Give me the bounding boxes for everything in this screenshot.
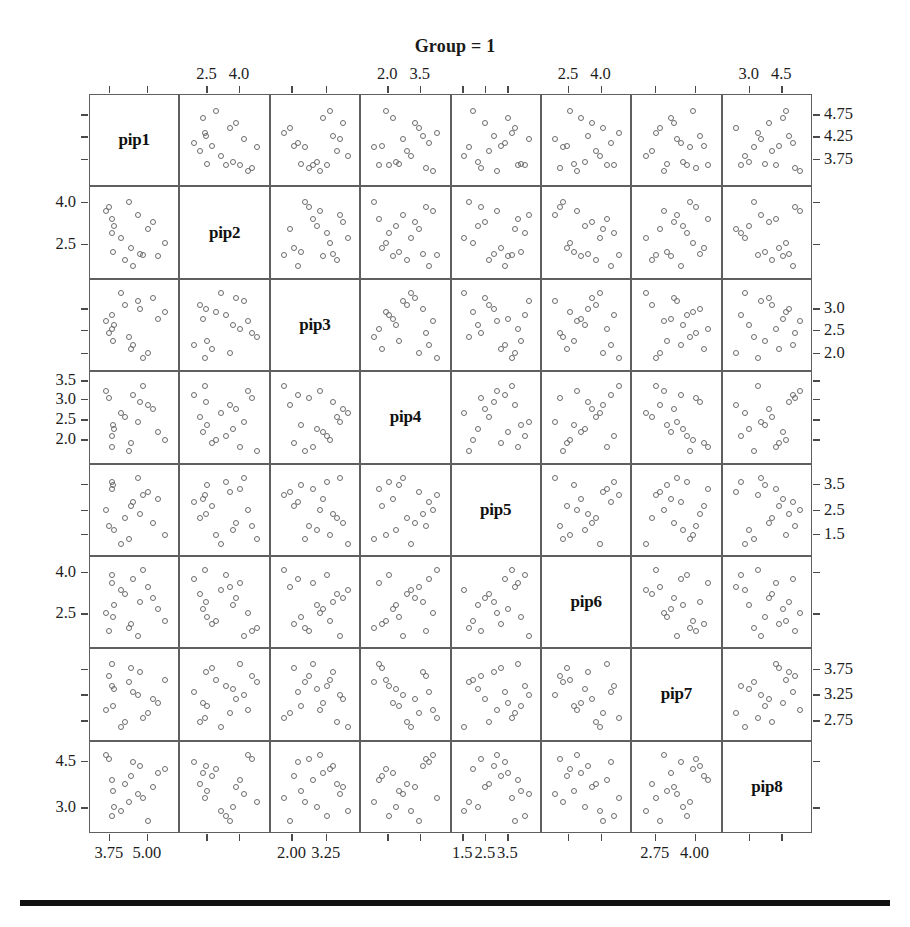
data-point bbox=[678, 392, 684, 398]
data-point bbox=[416, 125, 422, 131]
splom-panel-pip3-vs-pip8 bbox=[722, 279, 812, 371]
data-point bbox=[571, 788, 577, 794]
data-point bbox=[597, 724, 603, 730]
data-point bbox=[191, 759, 197, 765]
splom-diagonal-panel-pip3: pip3 bbox=[270, 279, 360, 371]
data-point bbox=[746, 527, 752, 533]
data-point bbox=[400, 692, 406, 698]
axis-tick bbox=[326, 86, 327, 93]
data-point bbox=[393, 686, 399, 692]
data-point bbox=[616, 383, 622, 389]
data-point bbox=[109, 572, 115, 578]
splom-panel-pip8-vs-pip4 bbox=[360, 741, 450, 833]
splom-variable-label: pip5 bbox=[480, 500, 511, 520]
axis-tick bbox=[813, 136, 820, 137]
data-point bbox=[515, 216, 521, 222]
data-point bbox=[466, 679, 472, 685]
data-point bbox=[693, 628, 699, 634]
data-point bbox=[245, 610, 251, 616]
data-point bbox=[302, 199, 308, 205]
data-point bbox=[564, 503, 570, 509]
data-point bbox=[680, 223, 686, 229]
data-point bbox=[306, 204, 312, 210]
data-point bbox=[687, 448, 693, 454]
data-point bbox=[423, 204, 429, 210]
axis-tick bbox=[781, 834, 782, 841]
data-point bbox=[330, 399, 336, 405]
data-point bbox=[509, 567, 515, 573]
data-point bbox=[776, 143, 782, 149]
data-point bbox=[109, 777, 115, 783]
data-point bbox=[287, 125, 293, 131]
data-point bbox=[109, 216, 115, 222]
axis-label-right: 3.0 bbox=[824, 300, 845, 317]
data-point bbox=[470, 309, 476, 315]
data-point bbox=[103, 208, 109, 214]
data-point bbox=[111, 322, 117, 328]
data-point bbox=[291, 773, 297, 779]
data-point bbox=[697, 306, 703, 312]
data-point bbox=[560, 448, 566, 454]
data-point bbox=[408, 541, 414, 547]
data-point bbox=[733, 489, 739, 495]
data-point bbox=[118, 541, 124, 547]
data-point bbox=[776, 665, 782, 671]
data-point bbox=[408, 235, 414, 241]
data-point bbox=[291, 665, 297, 671]
data-point bbox=[680, 527, 686, 533]
data-point bbox=[327, 618, 333, 624]
data-point bbox=[430, 208, 436, 214]
data-point bbox=[578, 429, 584, 435]
data-point bbox=[386, 572, 392, 578]
data-point bbox=[783, 437, 789, 443]
data-point bbox=[684, 312, 690, 318]
data-point bbox=[400, 475, 406, 481]
data-point bbox=[693, 204, 699, 210]
data-point bbox=[241, 475, 247, 481]
data-point bbox=[345, 808, 351, 814]
data-point bbox=[512, 226, 518, 232]
data-point bbox=[126, 448, 132, 454]
data-point bbox=[515, 580, 521, 586]
axis-tick bbox=[813, 484, 820, 485]
data-point bbox=[505, 115, 511, 121]
data-point bbox=[585, 399, 591, 405]
data-point bbox=[582, 527, 588, 533]
data-point bbox=[118, 410, 124, 416]
data-point bbox=[197, 148, 203, 154]
data-point bbox=[690, 309, 696, 315]
data-point bbox=[674, 475, 680, 481]
data-point bbox=[742, 724, 748, 730]
data-point bbox=[416, 226, 422, 232]
axis-tick bbox=[813, 308, 820, 309]
data-point bbox=[371, 679, 377, 685]
data-point bbox=[291, 440, 297, 446]
data-point bbox=[478, 673, 484, 679]
data-point bbox=[386, 813, 392, 819]
data-point bbox=[416, 350, 422, 356]
splom-panel-pip8-vs-pip1 bbox=[89, 741, 179, 833]
data-point bbox=[420, 763, 426, 769]
data-point bbox=[379, 665, 385, 671]
axis-tick bbox=[781, 86, 782, 93]
data-point bbox=[746, 426, 752, 432]
data-point bbox=[254, 799, 260, 805]
data-point bbox=[103, 318, 109, 324]
data-point bbox=[701, 346, 707, 352]
data-point bbox=[340, 784, 346, 790]
data-point bbox=[298, 614, 304, 620]
splom-variable-label: pip1 bbox=[119, 130, 150, 150]
data-point bbox=[478, 330, 484, 336]
data-point bbox=[400, 136, 406, 142]
axis-label-right: 3.25 bbox=[824, 686, 853, 703]
axis-tick bbox=[813, 720, 820, 721]
data-point bbox=[345, 410, 351, 416]
axis-label-bottom: 4.00 bbox=[680, 845, 709, 862]
data-point bbox=[396, 482, 402, 488]
data-point bbox=[571, 338, 577, 344]
figure-divider-rule bbox=[20, 900, 890, 906]
data-point bbox=[608, 263, 614, 269]
data-point bbox=[430, 610, 436, 616]
data-point bbox=[111, 527, 117, 533]
data-point bbox=[126, 679, 132, 685]
